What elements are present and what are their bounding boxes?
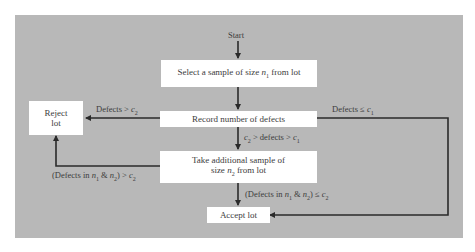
edge-label-accept-second: (Defects in n1 & n2) ≤ c2 [245,189,329,203]
select-sample-box: Select a sample of size n1 from lot [161,60,317,87]
edge-label-second-sample: c2 > defects > c1 [244,132,300,146]
record-defects-box: Record number of defects [160,111,317,127]
take-additional-sample-box: Take additional sample of size n2 from l… [160,151,317,183]
accept-lot-box: Accept lot [207,207,270,223]
arrow-additional-to-reject [56,136,160,166]
reject-lot-box: Reject lot [29,101,83,135]
edge-label-reject-second: (Defects in n1 & n2) > c2 [52,170,136,184]
edge-label-accept-first: Defects ≤ c1 [332,104,374,118]
start-label: Start [228,30,244,40]
edge-label-reject-first: Defects > c2 [96,104,138,118]
